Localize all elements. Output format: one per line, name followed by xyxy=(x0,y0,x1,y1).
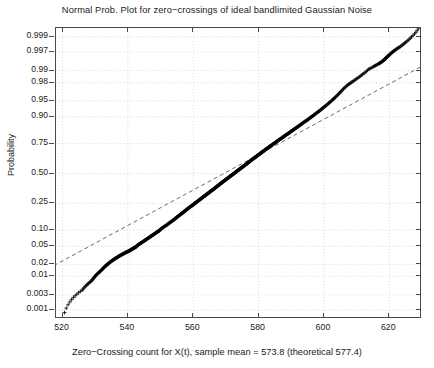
x-tick-mark xyxy=(127,313,128,318)
y-tick-mark-right xyxy=(416,309,421,310)
y-tick-mark xyxy=(49,70,54,71)
y-tick-mark xyxy=(49,275,54,276)
x-tick-label: 540 xyxy=(107,322,147,332)
y-tick-mark-right xyxy=(416,143,421,144)
x-tick-label: 560 xyxy=(172,322,212,332)
x-tick-mark xyxy=(388,313,389,318)
y-tick-label: 0.05 xyxy=(0,239,48,249)
y-tick-mark-right xyxy=(416,70,421,71)
y-tick-mark xyxy=(49,245,54,246)
y-tick-label: 0.001 xyxy=(0,303,48,313)
x-tick-label: 580 xyxy=(238,322,278,332)
y-tick-label: 0.95 xyxy=(0,94,48,104)
y-tick-label: 0.02 xyxy=(0,257,48,267)
y-tick-mark xyxy=(49,229,54,230)
x-tick-label: 520 xyxy=(42,322,82,332)
y-tick-mark-right xyxy=(416,116,421,117)
y-tick-label: 0.25 xyxy=(0,196,48,206)
y-tick-mark xyxy=(49,173,54,174)
x-tick-mark-top xyxy=(323,27,324,32)
plot-svg xyxy=(56,28,422,319)
y-tick-label: 0.50 xyxy=(0,167,48,177)
x-tick-mark-top xyxy=(62,27,63,32)
y-tick-label: 0.003 xyxy=(0,288,48,298)
x-tick-mark-top xyxy=(258,27,259,32)
data-markers xyxy=(63,28,421,314)
y-tick-mark-right xyxy=(416,229,421,230)
plot-area xyxy=(55,27,421,318)
y-tick-mark-right xyxy=(416,245,421,246)
y-tick-mark xyxy=(49,263,54,264)
y-tick-mark-right xyxy=(416,51,421,52)
y-tick-label: 0.90 xyxy=(0,110,48,120)
x-tick-mark xyxy=(258,313,259,318)
y-tick-label: 0.999 xyxy=(0,30,48,40)
y-tick-label: 0.997 xyxy=(0,45,48,55)
y-tick-label: 0.99 xyxy=(0,64,48,74)
y-tick-mark xyxy=(49,309,54,310)
y-tick-mark-right xyxy=(416,263,421,264)
y-tick-mark-right xyxy=(416,173,421,174)
y-tick-mark-right xyxy=(416,82,421,83)
x-tick-mark xyxy=(62,313,63,318)
y-tick-mark-right xyxy=(416,100,421,101)
figure-canvas: Normal Prob. Plot for zero−crossings of … xyxy=(0,0,434,368)
x-tick-label: 600 xyxy=(303,322,343,332)
y-tick-mark xyxy=(49,202,54,203)
y-tick-mark xyxy=(49,116,54,117)
y-tick-label: 0.01 xyxy=(0,269,48,279)
y-tick-mark xyxy=(49,51,54,52)
y-tick-label: 0.98 xyxy=(0,76,48,86)
y-tick-label: 0.75 xyxy=(0,137,48,147)
y-tick-mark xyxy=(49,100,54,101)
y-tick-mark xyxy=(49,294,54,295)
y-gridlines xyxy=(56,37,422,310)
x-tick-mark-top xyxy=(127,27,128,32)
y-tick-mark xyxy=(49,143,54,144)
y-tick-mark-right xyxy=(416,36,421,37)
y-tick-mark xyxy=(49,36,54,37)
y-tick-mark-right xyxy=(416,202,421,203)
x-tick-label: 620 xyxy=(368,322,408,332)
y-tick-label: 0.10 xyxy=(0,223,48,233)
y-axis-label: Probability xyxy=(6,120,16,190)
y-tick-mark xyxy=(49,82,54,83)
y-tick-mark-right xyxy=(416,275,421,276)
chart-title: Normal Prob. Plot for zero−crossings of … xyxy=(0,5,434,15)
x-axis-label: Zero−Crossing count for X(t), sample mea… xyxy=(0,347,434,357)
x-tick-mark xyxy=(323,313,324,318)
x-tick-mark-top xyxy=(388,27,389,32)
x-tick-mark-top xyxy=(192,27,193,32)
y-tick-mark-right xyxy=(416,294,421,295)
x-tick-mark xyxy=(192,313,193,318)
